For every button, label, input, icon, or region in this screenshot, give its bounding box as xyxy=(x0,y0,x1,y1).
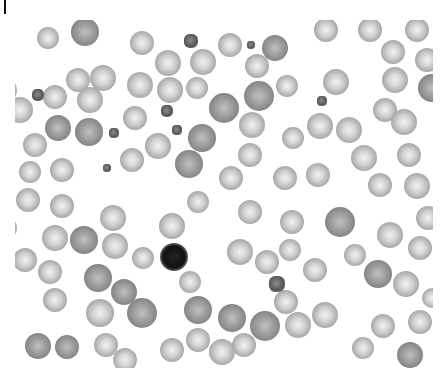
red-blood-cell xyxy=(418,74,433,102)
red-blood-cell xyxy=(314,20,338,42)
red-blood-cell xyxy=(187,191,209,213)
platelet xyxy=(32,89,44,101)
red-blood-cell xyxy=(38,260,62,284)
red-blood-cell xyxy=(25,333,51,359)
red-blood-cell xyxy=(408,236,432,260)
red-blood-cell xyxy=(238,143,262,167)
red-blood-cell xyxy=(358,20,382,42)
red-blood-cell xyxy=(179,271,201,293)
red-blood-cell xyxy=(274,290,298,314)
platelet xyxy=(161,105,173,117)
red-blood-cell xyxy=(19,161,41,183)
red-blood-cell xyxy=(244,81,274,111)
red-blood-cell xyxy=(160,338,184,362)
red-blood-cell xyxy=(100,205,126,231)
scale-tick-mark xyxy=(4,0,6,14)
platelet xyxy=(103,164,111,172)
red-blood-cell xyxy=(50,194,74,218)
red-blood-cell xyxy=(232,333,256,357)
red-blood-cell xyxy=(123,106,147,130)
red-blood-cell xyxy=(42,225,68,251)
red-blood-cell xyxy=(303,258,327,282)
red-blood-cell xyxy=(227,239,253,265)
red-blood-cell xyxy=(250,311,280,341)
red-blood-cell xyxy=(43,85,67,109)
red-blood-cell xyxy=(351,145,377,171)
red-blood-cell xyxy=(255,250,279,274)
red-blood-cell xyxy=(422,288,433,308)
red-blood-cell xyxy=(219,166,243,190)
red-blood-cell xyxy=(238,200,262,224)
red-blood-cell xyxy=(23,133,47,157)
red-blood-cell xyxy=(155,50,181,76)
red-blood-cell xyxy=(323,69,349,95)
red-blood-cell xyxy=(371,314,395,338)
red-blood-cell xyxy=(239,112,265,138)
platelet xyxy=(269,276,285,292)
platelet xyxy=(317,96,327,106)
red-blood-cell xyxy=(86,299,114,327)
red-blood-cell xyxy=(368,173,392,197)
red-blood-cell xyxy=(113,348,137,368)
red-blood-cell xyxy=(37,27,59,49)
red-blood-cell xyxy=(382,67,408,93)
red-blood-cell xyxy=(381,40,405,64)
red-blood-cell xyxy=(186,77,208,99)
red-blood-cell xyxy=(391,109,417,135)
red-blood-cell xyxy=(15,248,37,272)
red-blood-cell xyxy=(218,33,242,57)
red-blood-cell xyxy=(45,115,71,141)
red-blood-cell xyxy=(209,93,239,123)
platelet xyxy=(184,34,198,48)
red-blood-cell xyxy=(325,207,355,237)
red-blood-cell xyxy=(276,75,298,97)
red-blood-cell xyxy=(130,31,154,55)
red-blood-cell xyxy=(377,222,403,248)
red-blood-cell xyxy=(352,337,374,359)
red-blood-cell xyxy=(16,188,40,212)
red-blood-cell xyxy=(15,216,17,240)
red-blood-cell xyxy=(408,310,432,334)
red-blood-cell xyxy=(285,312,311,338)
red-blood-cell xyxy=(344,244,366,266)
red-blood-cell xyxy=(416,206,433,230)
red-blood-cell xyxy=(336,117,362,143)
lymphocyte xyxy=(160,243,188,271)
red-blood-cell xyxy=(120,148,144,172)
red-blood-cell xyxy=(102,233,128,259)
platelet xyxy=(172,125,182,135)
red-blood-cell xyxy=(280,210,304,234)
red-blood-cell xyxy=(15,97,33,123)
red-blood-cell xyxy=(245,54,269,78)
red-blood-cell xyxy=(50,158,74,182)
red-blood-cell xyxy=(190,49,216,75)
red-blood-cell xyxy=(84,264,112,292)
red-blood-cell xyxy=(127,298,157,328)
red-blood-cell xyxy=(188,124,216,152)
red-blood-cell xyxy=(159,213,185,239)
red-blood-cell xyxy=(415,48,433,72)
red-blood-cell xyxy=(145,133,171,159)
red-blood-cell xyxy=(397,342,423,368)
red-blood-cell xyxy=(404,173,430,199)
red-blood-cell xyxy=(70,226,98,254)
red-blood-cell xyxy=(307,113,333,139)
red-blood-cell xyxy=(186,328,210,352)
platelet xyxy=(109,128,119,138)
red-blood-cell xyxy=(157,77,183,103)
red-blood-cell xyxy=(397,143,421,167)
red-blood-cell xyxy=(77,87,103,113)
blood-smear-field xyxy=(15,20,433,368)
red-blood-cell xyxy=(282,127,304,149)
red-blood-cell xyxy=(55,335,79,359)
red-blood-cell xyxy=(364,260,392,288)
red-blood-cell xyxy=(273,166,297,190)
red-blood-cell xyxy=(43,288,67,312)
red-blood-cell xyxy=(393,271,419,297)
red-blood-cell xyxy=(71,20,99,46)
red-blood-cell xyxy=(75,118,103,146)
microscopy-image xyxy=(0,0,444,378)
red-blood-cell xyxy=(184,296,212,324)
red-blood-cell xyxy=(127,72,153,98)
red-blood-cell xyxy=(218,304,246,332)
